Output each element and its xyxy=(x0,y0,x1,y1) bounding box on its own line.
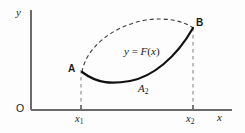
origin-label: O xyxy=(16,103,24,114)
area-label-base: A xyxy=(138,82,145,94)
curve-equation-equals: = xyxy=(129,45,141,57)
point-label-a: A xyxy=(68,64,75,74)
area-label-subscript: 2 xyxy=(145,87,149,96)
x-axis-label: x xyxy=(217,112,222,123)
x-tick-label-x2: x2 xyxy=(186,114,194,125)
plot-canvas xyxy=(0,0,245,133)
curve-equation-label: y = F(x) xyxy=(124,46,160,57)
point-label-b: B xyxy=(196,18,203,28)
area-label-a2: A2 xyxy=(138,83,148,94)
x-tick-label-x1-base: x xyxy=(75,113,80,124)
math-diagram-figure: y x O A B y = F(x) A2 x1 x2 xyxy=(0,0,245,133)
x-tick-label-x2-subscript: 2 xyxy=(191,117,195,126)
x-tick-label-x2-base: x xyxy=(186,113,191,124)
curve-equation-close-paren: ) xyxy=(156,45,160,57)
x-tick-label-x1: x1 xyxy=(75,114,83,125)
y-axis-label: y xyxy=(16,7,21,18)
x-tick-label-x1-subscript: 1 xyxy=(80,117,84,126)
